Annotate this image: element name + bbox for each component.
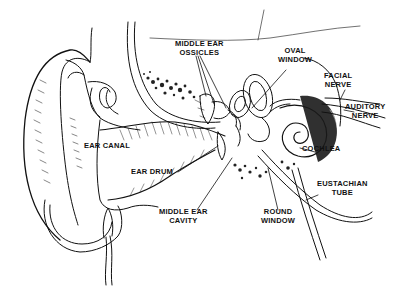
label-middle-ear-cavity: MIDDLE EAR CAVITY <box>159 208 208 225</box>
ossicles <box>195 94 241 146</box>
label-eustachian-tube: EUSTACHIAN TUBE <box>317 180 368 197</box>
label-round-window: ROUND WINDOW <box>261 208 295 225</box>
label-cochlea: COCHLEA <box>302 145 340 154</box>
label-facial-nerve: FACIAL NERVE <box>324 72 352 89</box>
semicircular-canals <box>226 71 277 141</box>
label-ear-canal: EAR CANAL <box>84 142 130 151</box>
ear-canal <box>100 122 225 200</box>
mastoid-cells <box>143 71 295 179</box>
eustachian-tube-drawing <box>258 150 372 260</box>
label-oval-window: OVAL WINDOW <box>278 47 312 64</box>
label-middle-ear-ossicles: MIDDLE EAR OSSICLES <box>175 40 224 57</box>
label-auditory-nerve: AUDITORY NERVE <box>345 103 385 120</box>
label-ear-drum: EAR DRUM <box>131 168 173 177</box>
